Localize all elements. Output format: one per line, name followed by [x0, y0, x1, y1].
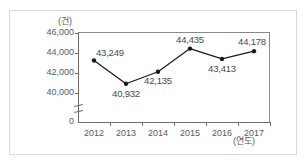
data-point-label: 44,178	[238, 37, 266, 47]
data-point-label: 43,413	[208, 64, 236, 74]
data-point-marker	[92, 58, 96, 62]
data-point-label: 40,932	[112, 89, 140, 99]
data-point-marker	[252, 49, 256, 53]
data-point-marker	[188, 46, 192, 50]
data-point-marker	[124, 82, 128, 86]
data-point-marker	[220, 57, 224, 61]
data-point-label: 43,249	[96, 48, 124, 58]
data-point-label: 44,435	[176, 35, 204, 45]
data-point-label: 42,135	[144, 76, 172, 86]
data-point-marker	[156, 70, 160, 74]
chart-screenshot: (건) (연도) 46,00044,00042,00040,0000 20122…	[0, 0, 307, 166]
